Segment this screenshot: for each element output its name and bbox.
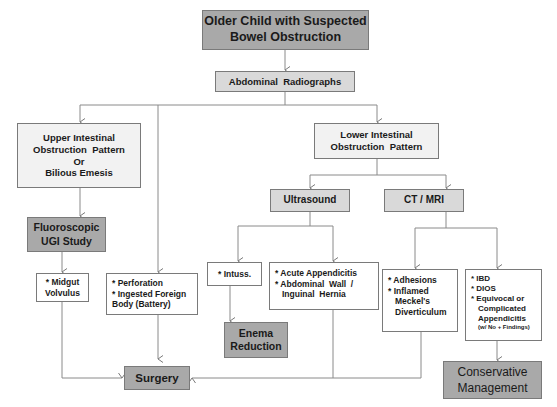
adh-line-2: * Inflamed	[388, 286, 429, 297]
intuss-label: * Intuss.	[218, 269, 251, 280]
adh-line-3: Meckel's	[388, 296, 430, 307]
title-line-2: Bowel Obstruction	[230, 30, 341, 46]
lower-line-2: Obstruction Pattern	[331, 141, 423, 153]
acute-appendicitis-box: * Acute Appendicitis * Abdominal Wall / …	[269, 262, 379, 310]
midgut-volvulus-box: * Midgut Volvulus	[36, 273, 89, 302]
adhesions-box: * Adhesions * Inflamed Meckel's Divertic…	[382, 269, 458, 332]
adh-line-4: Diverticulum	[388, 307, 447, 318]
ibd-line-2: * DIOS	[471, 284, 496, 294]
ibd-dios-box: * IBD * DIOS * Equivocal or Complicated …	[465, 269, 542, 341]
conservative-line-2: Management	[457, 380, 527, 396]
surgery-box: Surgery	[124, 366, 190, 390]
lower-obstruction-box: Lower Intestinal Obstruction Pattern	[314, 123, 439, 159]
fluoroscopic-ugi-box: Fluoroscopic UGI Study	[27, 217, 106, 252]
adh-line-1: * Adhesions	[388, 275, 437, 286]
ibd-line-1: * IBD	[471, 274, 490, 284]
perf-line-1: * Perforation	[112, 278, 163, 289]
perf-line-2: * Ingested Foreign	[112, 289, 186, 300]
perf-line-3: Body (Battery)	[112, 299, 171, 310]
radiographs-label: Abdominal Radiographs	[229, 76, 341, 88]
title-line-1: Older Child with Suspected	[204, 14, 367, 30]
ct-mri-label: CT / MRI	[404, 194, 444, 207]
midgut-line-2: Volvulus	[45, 288, 80, 299]
midgut-line-1: * Midgut	[46, 277, 80, 288]
acute-line-2: * Abdominal Wall /	[275, 279, 353, 290]
ibd-line-6: (w/ No + Findings)	[471, 324, 530, 332]
conservative-line-1: Conservative	[457, 364, 527, 380]
perforation-box: * Perforation * Ingested Foreign Body (B…	[106, 273, 198, 315]
start-box-older-child: Older Child with Suspected Bowel Obstruc…	[202, 10, 369, 50]
upper-line-2: Obstruction Pattern	[33, 144, 125, 156]
lower-line-1: Lower Intestinal	[340, 129, 412, 141]
ibd-line-5: Appendicitis	[471, 314, 526, 324]
ultrasound-box: Ultrasound	[270, 189, 350, 212]
enema-line-1: Enema	[239, 327, 273, 340]
upper-line-3: Or	[73, 156, 84, 168]
upper-line-4: Bilious Emesis	[45, 167, 113, 179]
intussusception-box: * Intuss.	[207, 262, 262, 286]
fluoro-line-1: Fluoroscopic	[34, 221, 100, 234]
acute-line-3: Inguinal Hernia	[275, 289, 346, 300]
fluoro-line-2: UGI Study	[41, 235, 92, 248]
upper-obstruction-box: Upper Intestinal Obstruction Pattern Or …	[17, 123, 141, 188]
conservative-management-box: Conservative Management	[443, 361, 542, 399]
ibd-line-3: * Equivocal or	[471, 294, 524, 304]
enema-line-2: Reduction	[230, 340, 281, 353]
ibd-line-4: Complicated	[471, 304, 526, 314]
ultrasound-label: Ultrasound	[284, 194, 337, 207]
acute-line-1: * Acute Appendicitis	[275, 268, 357, 279]
upper-line-1: Upper Intestinal	[43, 132, 115, 144]
abdominal-radiographs-box: Abdominal Radiographs	[215, 71, 355, 92]
ct-mri-box: CT / MRI	[384, 189, 464, 212]
surgery-label: Surgery	[135, 371, 178, 385]
enema-reduction-box: Enema Reduction	[224, 322, 288, 358]
